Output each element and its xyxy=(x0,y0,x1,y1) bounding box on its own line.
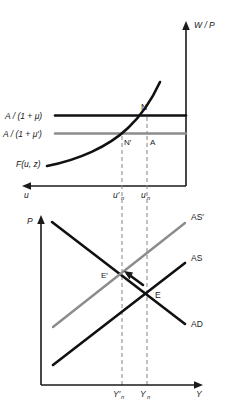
point-a-label: A xyxy=(150,138,156,147)
point-n-label: N xyxy=(141,102,147,112)
top-panel-y-axis xyxy=(182,21,190,186)
tick-u-prime-label: u′ xyxy=(113,190,120,200)
bottom-panel: P Y AD AS AS′ E′ E xyxy=(27,212,204,400)
bottom-xtick-y-n: Y n xyxy=(140,389,150,400)
y-axis-arrow-icon-bottom xyxy=(194,381,203,389)
ad-label: AD xyxy=(191,319,203,329)
price-setting-low-label: A / (1 + μ′) xyxy=(2,129,42,139)
tick-y-prime-subscript: n xyxy=(121,394,124,400)
top-y-axis-label: W / P xyxy=(194,20,215,30)
wage-setting-label: F(u, z) xyxy=(16,159,41,169)
point-n-prime-label: N′ xyxy=(124,138,132,147)
top-panel-x-axis xyxy=(22,182,186,190)
bottom-y-axis-label: P xyxy=(27,216,33,226)
top-x-axis-label: u xyxy=(24,190,29,200)
y-axis-arrow-icon xyxy=(182,21,190,30)
point-e-prime-label: E′ xyxy=(101,271,108,280)
as-curve xyxy=(53,263,185,365)
price-setting-high-label: A / (1 + μ) xyxy=(4,111,42,121)
as-label: AS xyxy=(191,253,203,263)
tick-y-label: Y xyxy=(140,389,147,399)
as-prime-label: AS′ xyxy=(191,212,204,222)
economics-diagram: W / P u A / (1 + μ) A / (1 + μ′) F(u, z)… xyxy=(0,0,225,416)
tick-u-label: u xyxy=(141,190,146,200)
wage-setting-curve xyxy=(47,82,160,166)
connecting-dashed-lines xyxy=(122,136,147,385)
bottom-xtick-y-prime-n: Y′ n xyxy=(113,389,124,400)
tick-y-prime-label: Y′ xyxy=(113,389,121,399)
top-panel: W / P u A / (1 + μ) A / (1 + μ′) F(u, z)… xyxy=(2,20,215,201)
tick-y-subscript: n xyxy=(147,394,150,400)
top-xtick-u-n: u n xyxy=(141,190,150,201)
point-e-label: E xyxy=(155,290,161,300)
bottom-panel-y-axis xyxy=(37,215,45,385)
bottom-x-axis-label: Y xyxy=(196,389,203,399)
diagram-svg: W / P u A / (1 + μ) A / (1 + μ′) F(u, z)… xyxy=(0,0,225,416)
x-axis-arrow-icon xyxy=(22,182,31,190)
p-axis-arrow-icon xyxy=(37,215,45,224)
